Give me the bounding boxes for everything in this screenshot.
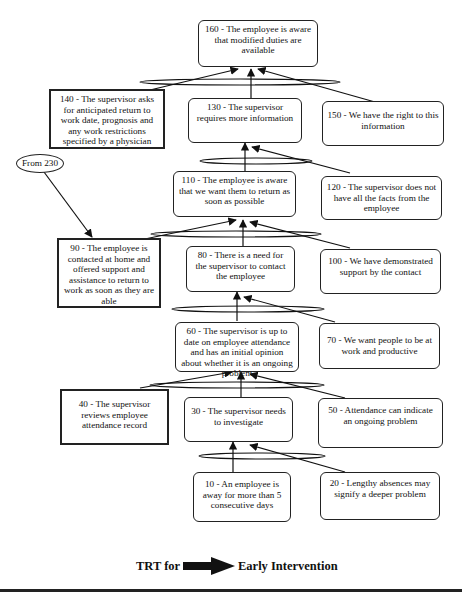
right-arrow-icon <box>183 557 235 575</box>
node-10: 10 - An employee is away for more than 5… <box>193 472 291 522</box>
node-140-text: 140 - The supervisor asks for anticipate… <box>60 94 154 146</box>
node-110: 110 - The employee is aware that we want… <box>173 171 296 217</box>
node-120: 120 - The supervisor does not have all t… <box>321 176 442 220</box>
node-50: 50 - Attendance can indicate an ongoing … <box>318 398 443 448</box>
node-100-text: 100 - We have demonstrated support by th… <box>328 256 433 277</box>
connector-from-230: From 230 <box>16 154 64 173</box>
node-70-text: 70 - We want people to be at work and pr… <box>327 335 432 356</box>
node-40-text: 40 - The supervisor reviews employee att… <box>79 399 151 430</box>
node-130-text: 130 - The supervisor requires more infor… <box>197 102 293 123</box>
node-150: 150 - We have the right to this informat… <box>322 101 444 146</box>
bottom-rule <box>0 589 462 592</box>
node-20-text: 20 - Lengthy absences may signify a deep… <box>330 478 431 499</box>
caption-right: Early Intervention <box>238 559 338 574</box>
node-70: 70 - We want people to be at work and pr… <box>319 323 440 369</box>
node-160-text: 160 - The employee is aware that modifie… <box>205 24 311 55</box>
node-130: 130 - The supervisor requires more infor… <box>188 98 302 143</box>
node-60: 60 - The supervisor is up to date on emp… <box>175 322 299 372</box>
node-150-text: 150 - We have the right to this informat… <box>327 110 438 131</box>
node-160: 160 - The employee is aware that modifie… <box>198 20 318 67</box>
node-30-text: 30 - The supervisor needs to investigate <box>191 406 286 427</box>
node-90-text: 90 - The employee is contacted at home a… <box>64 243 154 306</box>
node-120-text: 120 - The supervisor does not have all t… <box>327 182 436 213</box>
connector-from-230-text: From 230 <box>22 158 58 168</box>
node-10-text: 10 - An employee is away for more than 5… <box>203 479 282 510</box>
node-60-text: 60 - The supervisor is up to date on emp… <box>181 326 293 378</box>
node-80: 80 - There is a need for the supervisor … <box>186 246 295 292</box>
node-50-text: 50 - Attendance can indicate an ongoing … <box>328 405 433 426</box>
node-110-text: 110 - The employee is aware that we want… <box>179 175 290 206</box>
node-100: 100 - We have demonstrated support by th… <box>320 249 441 294</box>
caption-left: TRT for <box>136 559 180 574</box>
diagram-caption: TRT for Early Intervention <box>0 557 462 577</box>
node-80-text: 80 - There is a need for the supervisor … <box>195 250 285 281</box>
node-40: 40 - The supervisor reviews employee att… <box>60 389 169 445</box>
node-30: 30 - The supervisor needs to investigate <box>184 397 293 442</box>
node-90: 90 - The employee is contacted at home a… <box>57 238 161 308</box>
node-140: 140 - The supervisor asks for anticipate… <box>49 89 165 149</box>
node-20: 20 - Lengthy absences may signify a deep… <box>320 472 440 520</box>
